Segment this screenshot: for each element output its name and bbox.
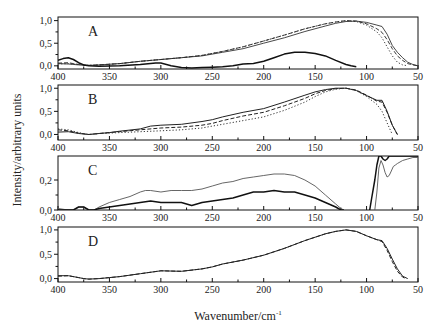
x-tick-label: 350 <box>102 71 117 82</box>
y-tick-label: 1,0 <box>40 224 53 235</box>
x-tick-label: 400 <box>51 71 66 82</box>
panel-letter: C <box>88 163 97 178</box>
series-a-solid-thin <box>58 21 418 66</box>
x-tick-label: 100 <box>359 142 374 153</box>
x-tick-label: 400 <box>51 142 66 153</box>
x-tick-label: 50 <box>413 71 423 82</box>
y-tick-label: 0,5 <box>40 38 53 49</box>
series-c-thick-right <box>370 156 418 210</box>
x-tick-label: 300 <box>153 284 168 295</box>
y-tick-label: 1,0 <box>40 15 53 26</box>
series-c-thin <box>58 174 344 210</box>
series-c-thin-right <box>375 158 418 211</box>
panel-letter: A <box>88 24 99 39</box>
x-tick-label: 350 <box>102 212 117 223</box>
x-tick-label: 200 <box>256 71 271 82</box>
panel-c: 400350300250200150100500,00,2C <box>40 156 424 223</box>
spectra-figure: 400350300250200150100500,00,51,0A4003503… <box>0 0 437 333</box>
series-b-dashed <box>58 88 397 134</box>
y-tick-label: 0,0 <box>40 205 53 216</box>
x-tick-label: 350 <box>102 284 117 295</box>
x-tick-label: 100 <box>359 212 374 223</box>
x-tick-label: 100 <box>359 284 374 295</box>
x-tick-label: 200 <box>256 284 271 295</box>
y-tick-label: 0,2 <box>40 175 53 186</box>
panel-letter: D <box>88 234 98 249</box>
series-b-solid <box>58 88 397 134</box>
x-tick-label: 250 <box>205 142 220 153</box>
x-tick-label: 400 <box>51 212 66 223</box>
panel-b: 400350300250200150100500,00,51,0B <box>40 83 424 153</box>
panel-a: 400350300250200150100500,00,51,0A <box>40 15 424 82</box>
x-tick-label: 150 <box>308 142 323 153</box>
panel-letter: B <box>88 92 97 107</box>
x-tick-label: 250 <box>205 284 220 295</box>
series-a-dotted <box>58 21 408 66</box>
y-tick-label: 0,5 <box>40 249 53 260</box>
x-tick-label: 250 <box>205 71 220 82</box>
x-tick-label: 150 <box>308 71 323 82</box>
plot-frame <box>58 227 418 282</box>
y-tick-label: 0,0 <box>40 60 53 71</box>
x-tick-label: 400 <box>51 284 66 295</box>
series-a-dashed <box>58 21 418 66</box>
series-d-dashed <box>58 230 406 279</box>
series-d-solid <box>58 230 408 279</box>
plot-frame <box>58 17 418 69</box>
series-b-dotted <box>58 88 392 134</box>
x-tick-label: 350 <box>102 142 117 153</box>
x-tick-label: 200 <box>256 142 271 153</box>
x-tick-label: 200 <box>256 212 271 223</box>
x-tick-label: 150 <box>308 212 323 223</box>
x-tick-label: 100 <box>359 71 374 82</box>
panel-d: 400350300250200150100500,00,51,0D <box>40 224 424 295</box>
x-tick-label: 300 <box>153 212 168 223</box>
x-tick-label: 50 <box>413 212 423 223</box>
y-tick-label: 0,5 <box>40 106 53 117</box>
x-tick-label: 250 <box>205 212 220 223</box>
series-c-thick <box>58 191 344 211</box>
x-tick-label: 150 <box>308 284 323 295</box>
x-tick-label: 300 <box>153 142 168 153</box>
x-tick-label: 50 <box>413 284 423 295</box>
y-tick-label: 0,0 <box>40 129 53 140</box>
x-tick-label: 50 <box>413 142 423 153</box>
x-tick-label: 300 <box>153 71 168 82</box>
y-tick-label: 1,0 <box>40 83 53 94</box>
y-tick-label: 0,0 <box>40 273 53 284</box>
